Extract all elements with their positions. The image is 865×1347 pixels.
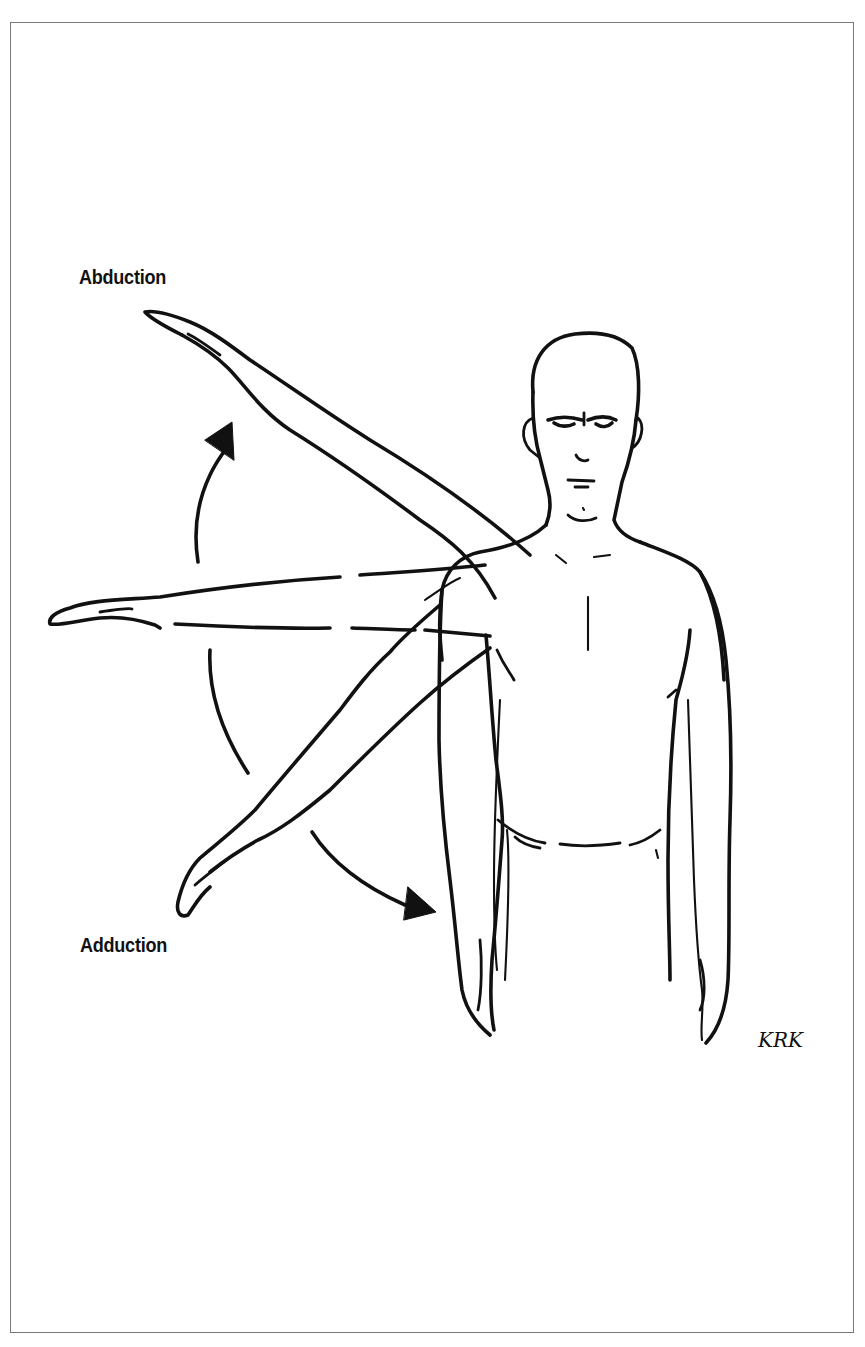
abduction-label: Abduction: [79, 265, 166, 289]
shoulder-motion-illustration: [0, 0, 865, 1347]
abduction-arrow-icon: [205, 422, 234, 460]
artist-signature: KRK: [758, 1028, 803, 1052]
arm-lowered-diagonal: [177, 578, 490, 916]
arm-horizontal: [50, 565, 490, 636]
adduction-label: Adduction: [80, 933, 167, 957]
adduction-arrow-icon: [404, 887, 436, 920]
head: [524, 333, 642, 542]
